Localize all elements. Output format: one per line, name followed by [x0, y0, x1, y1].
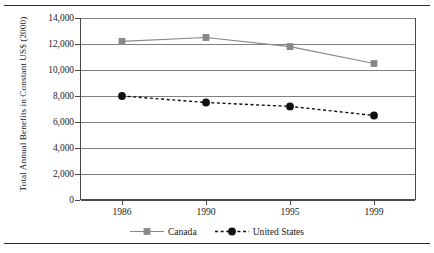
series-united-states [118, 92, 378, 119]
legend-label: United States [253, 226, 304, 237]
x-tick-label: 1990 [176, 206, 236, 217]
top-divider-rule [4, 5, 430, 6]
y-tick-mark [75, 200, 80, 201]
circle-marker [118, 92, 126, 100]
x-tick-label: 1999 [344, 206, 404, 217]
square-marker [143, 228, 150, 235]
chart-figure: Total Annual Benefits in Constant US$ (2… [0, 0, 434, 253]
y-tick-label: 8,000 [0, 91, 74, 101]
series-canada [119, 34, 378, 67]
square-marker [287, 43, 294, 50]
circle-marker [228, 228, 236, 236]
x-tick-label: 1995 [260, 206, 320, 217]
solid-line-swatch [130, 226, 164, 237]
chart-legend: CanadaUnited States [0, 224, 434, 237]
series-line [122, 96, 374, 116]
y-tick-label: 14,000 [0, 13, 74, 23]
circle-marker [286, 103, 294, 111]
series-line [122, 38, 374, 64]
square-marker [371, 60, 378, 67]
x-tick-label: 1986 [92, 206, 152, 217]
legend-item-united-states: United States [215, 225, 304, 237]
y-tick-label: 6,000 [0, 117, 74, 127]
circle-marker [202, 99, 210, 107]
bottom-divider-rule [4, 243, 430, 244]
legend-label: Canada [168, 226, 197, 237]
dashed-line-swatch [215, 226, 249, 237]
y-tick-label: 4,000 [0, 143, 74, 153]
square-marker [203, 34, 210, 41]
y-tick-label: 10,000 [0, 65, 74, 75]
circle-marker [370, 112, 378, 120]
square-marker [119, 38, 126, 45]
series-layer [80, 18, 416, 200]
legend-item-canada: Canada [130, 225, 197, 237]
y-tick-label: 0 [0, 195, 74, 205]
y-tick-label: 2,000 [0, 169, 74, 179]
y-tick-label: 12,000 [0, 39, 74, 49]
gridline [81, 200, 415, 201]
